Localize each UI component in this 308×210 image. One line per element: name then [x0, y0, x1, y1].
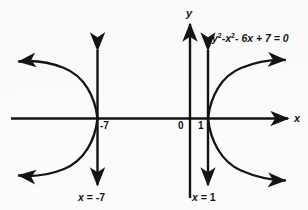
asymptote-left-variable: x: [78, 191, 84, 203]
asymptote-right-variable: x: [192, 191, 198, 203]
curve-left-upper: [19, 61, 98, 119]
tick-label-one: 1: [198, 121, 204, 131]
curve-left-lower: [19, 119, 98, 177]
y-axis-label: y: [186, 8, 192, 19]
asymptote-right-equals: =: [201, 191, 207, 203]
curve-right-upper: [208, 60, 285, 119]
asymptote-right-value: 1: [210, 191, 216, 203]
equation-label: y2-x2- 6x + 7 = 0: [212, 33, 289, 44]
x-axis-label: x: [294, 113, 300, 124]
asymptote-left-value: -7: [96, 191, 105, 203]
asymptote-label-left: x = -7: [78, 192, 105, 203]
curve-right-lower: [208, 119, 285, 181]
asymptote-left-equals: =: [87, 191, 93, 203]
graph-figure: y x -7 0 1 x = -7 x = 1 y2-x2- 6x + 7 = …: [0, 0, 308, 210]
origin-label: 0: [178, 121, 184, 131]
asymptote-label-right: x = 1: [192, 192, 216, 203]
tick-label-minus-7: -7: [100, 121, 109, 131]
equation-tail: - 6x + 7 = 0: [235, 32, 289, 44]
